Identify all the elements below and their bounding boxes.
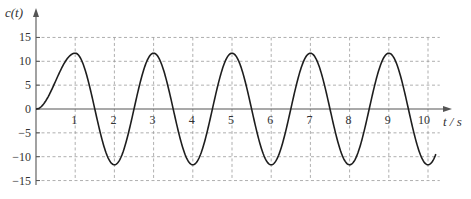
y-tick-label: 5 (25, 78, 31, 92)
x-tick-labels: 12345678910 (71, 113, 430, 127)
y-tick-label: −5 (18, 126, 31, 140)
x-tick-label: 7 (306, 113, 312, 127)
x-tick-label: 4 (189, 113, 195, 127)
x-tick-label: 9 (385, 113, 391, 127)
x-tick-label: 8 (346, 113, 352, 127)
x-axis-title: t / s (443, 114, 462, 129)
x-tick-label: 5 (228, 113, 234, 127)
x-tick-label: 10 (418, 113, 430, 127)
y-axis-title: c(t) (5, 5, 23, 20)
x-tick-label: 6 (267, 113, 273, 127)
y-tick-label: 0 (25, 102, 31, 116)
y-tick-label: 10 (19, 54, 31, 68)
x-tick-label: 3 (150, 113, 156, 127)
y-tick-label: −15 (12, 174, 31, 188)
x-axis-arrow-icon (443, 106, 452, 112)
x-tick-label: 2 (110, 113, 116, 127)
y-axis-arrow-icon (33, 8, 39, 17)
line-chart: 151050−5−10−15 12345678910 c(t) t / s (0, 0, 471, 199)
y-tick-label: 15 (19, 30, 31, 44)
x-tick-label: 1 (71, 113, 77, 127)
y-tick-label: −10 (12, 150, 31, 164)
